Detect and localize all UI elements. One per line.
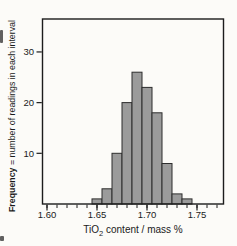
histogram-bar	[132, 72, 142, 204]
y-tick-label: 20	[23, 97, 34, 108]
scan-artifact	[0, 30, 3, 43]
x-tick-label: 1.75	[188, 209, 207, 220]
bars-group	[92, 72, 192, 204]
x-axis-title-prefix: TiO	[83, 224, 99, 235]
x-tick-labels: 1.601.651.701.75	[38, 209, 207, 220]
y-axis-title: Frequency = number of readings in each i…	[7, 20, 17, 212]
histogram-chart: 1.601.651.701.75 102030 Frequency = numb…	[0, 0, 237, 246]
histogram-figure: 1.601.651.701.75 102030 Frequency = numb…	[0, 0, 237, 246]
y-axis-title-rest: = number of readings in each interval	[7, 20, 17, 167]
histogram-bar	[182, 199, 192, 204]
y-tick-labels: 102030	[23, 46, 34, 158]
x-axis-title: TiO2 content / mass %	[83, 224, 183, 238]
x-tick-label: 1.60	[38, 209, 57, 220]
y-tick-label: 30	[23, 46, 34, 57]
x-tick-label: 1.65	[88, 209, 107, 220]
scan-artifact	[0, 236, 4, 241]
y-axis-ticks	[37, 52, 42, 153]
x-tick-label: 1.70	[138, 209, 157, 220]
x-axis-title-suffix: content / mass %	[103, 224, 183, 235]
y-tick-label: 10	[23, 148, 34, 159]
histogram-bar	[112, 153, 122, 204]
histogram-bar	[122, 103, 132, 204]
histogram-bar	[92, 199, 102, 204]
histogram-bar	[172, 194, 182, 204]
y-axis-title-bold: Frequency	[7, 167, 17, 212]
histogram-bar	[142, 87, 152, 204]
histogram-bar	[102, 189, 112, 204]
histogram-bar	[152, 113, 162, 204]
histogram-bar	[162, 164, 172, 205]
